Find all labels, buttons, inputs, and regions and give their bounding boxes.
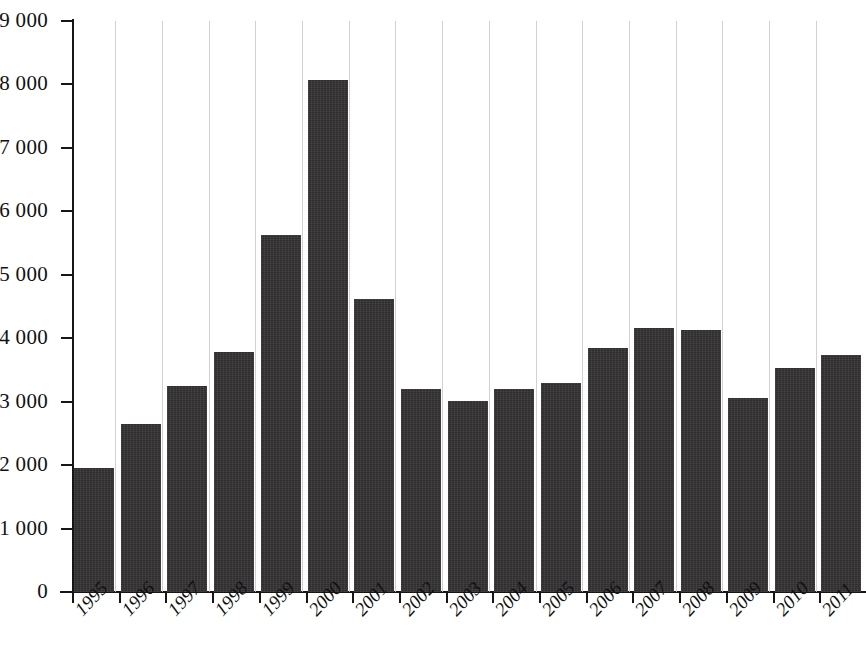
bar-1999 bbox=[261, 235, 301, 592]
y-tick-mark bbox=[61, 591, 72, 593]
gridline bbox=[162, 21, 163, 592]
bar-2010 bbox=[775, 368, 815, 592]
gridline bbox=[722, 21, 723, 592]
bar-2002 bbox=[401, 389, 441, 592]
bar-1997 bbox=[167, 386, 207, 592]
y-tick-mark bbox=[61, 528, 72, 530]
bar-2005 bbox=[541, 383, 581, 592]
bar-1996 bbox=[121, 424, 161, 592]
plot-area bbox=[72, 21, 866, 592]
bar-2001 bbox=[354, 299, 394, 592]
gridline bbox=[676, 21, 677, 592]
gridline bbox=[769, 21, 770, 592]
bar-2007 bbox=[634, 328, 674, 592]
gridline bbox=[629, 21, 630, 592]
y-tick-mark bbox=[61, 83, 72, 85]
y-tick-mark bbox=[61, 147, 72, 149]
y-tick-label: 9 000 bbox=[0, 10, 48, 31]
y-tick-label: 3 000 bbox=[0, 391, 48, 412]
gridline bbox=[349, 21, 350, 592]
bar-chart: 01 0002 0003 0004 0005 0006 0007 0008 00… bbox=[0, 0, 866, 649]
bar-1998 bbox=[214, 352, 254, 592]
gridline bbox=[536, 21, 537, 592]
y-tick-mark bbox=[61, 20, 72, 22]
bar-2003 bbox=[448, 401, 488, 592]
y-tick-mark bbox=[61, 401, 72, 403]
y-tick-mark bbox=[61, 464, 72, 466]
gridline bbox=[489, 21, 490, 592]
bar-2009 bbox=[728, 398, 768, 592]
y-tick-label: 8 000 bbox=[0, 73, 48, 94]
bar-1995 bbox=[74, 468, 114, 592]
gridline bbox=[395, 21, 396, 592]
gridline bbox=[816, 21, 817, 592]
gridline bbox=[115, 21, 116, 592]
gridline bbox=[582, 21, 583, 592]
y-tick-label: 7 000 bbox=[0, 137, 48, 158]
y-tick-label: 2 000 bbox=[0, 454, 48, 475]
bar-2004 bbox=[494, 389, 534, 592]
bar-2008 bbox=[681, 330, 721, 592]
y-tick-label: 0 bbox=[37, 581, 48, 602]
y-tick-label: 1 000 bbox=[0, 518, 48, 539]
y-tick-label: 4 000 bbox=[0, 327, 48, 348]
gridline bbox=[442, 21, 443, 592]
y-tick-label: 6 000 bbox=[0, 200, 48, 221]
y-tick-mark bbox=[61, 337, 72, 339]
y-tick-mark bbox=[61, 210, 72, 212]
y-tick-label: 5 000 bbox=[0, 264, 48, 285]
bar-2000 bbox=[308, 80, 348, 592]
gridline bbox=[302, 21, 303, 592]
bar-2006 bbox=[588, 348, 628, 592]
gridline bbox=[209, 21, 210, 592]
y-tick-mark bbox=[61, 274, 72, 276]
gridline bbox=[255, 21, 256, 592]
bar-2011 bbox=[821, 355, 861, 592]
